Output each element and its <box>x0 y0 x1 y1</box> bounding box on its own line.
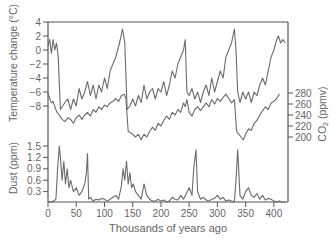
temperature-tick-label: 0 <box>35 45 41 56</box>
co2-axis: 280260240220200 <box>288 88 312 143</box>
co2-tick-label: 200 <box>295 132 312 143</box>
x-axis-title: Thousands of years ago <box>109 222 227 234</box>
x-tick-label: 50 <box>71 208 83 219</box>
temperature-tick-label: −8 <box>30 101 42 112</box>
dust-tick-label: 1.2 <box>27 152 41 163</box>
co2-tick-label: 220 <box>295 121 312 132</box>
x-axis: 050100150200250300350400 <box>45 202 282 219</box>
temperature-tick-label: −2 <box>30 59 42 70</box>
temperature-line <box>48 29 285 110</box>
dust-line <box>48 146 285 202</box>
temperature-tick-label: 4 <box>35 17 41 28</box>
chart-svg: 420−2−4−6−8 280260240220200 1.51.20.90.6… <box>0 0 336 240</box>
x-tick-label: 200 <box>153 208 170 219</box>
temperature-tick-label: −6 <box>30 87 42 98</box>
dust-axis: 1.51.20.90.60.3 <box>27 141 48 198</box>
x-tick-label: 300 <box>209 208 226 219</box>
dust-tick-label: 0.6 <box>27 175 41 186</box>
dust-tick-label: 0.3 <box>27 186 41 197</box>
co2-tick-label: 260 <box>295 99 312 110</box>
x-tick-label: 100 <box>96 208 113 219</box>
x-tick-label: 150 <box>124 208 141 219</box>
plot-frame <box>48 22 288 202</box>
x-tick-label: 0 <box>45 208 51 219</box>
co2-axis-title: CO2 (ppmv) <box>316 86 329 141</box>
co2-title-main: CO <box>316 126 328 142</box>
co2-title-unit: (ppmv) <box>316 86 328 122</box>
dust-tick-label: 1.5 <box>27 141 41 152</box>
x-tick-label: 250 <box>181 208 198 219</box>
co2-tick-label: 280 <box>295 88 312 99</box>
co2-line <box>48 93 280 140</box>
temperature-axis-title: Temperature change (°C) <box>7 4 19 122</box>
x-tick-label: 400 <box>266 208 283 219</box>
dust-tick-label: 0.9 <box>27 163 41 174</box>
temperature-tick-label: −4 <box>30 73 42 84</box>
ice-core-chart: 420−2−4−6−8 280260240220200 1.51.20.90.6… <box>0 0 336 240</box>
x-tick-label: 350 <box>237 208 254 219</box>
co2-tick-label: 240 <box>295 110 312 121</box>
data-series <box>48 29 285 202</box>
temperature-axis: 420−2−4−6−8 <box>30 17 48 112</box>
temperature-tick-label: 2 <box>35 31 41 42</box>
dust-axis-title: Dust (ppm) <box>7 142 19 194</box>
